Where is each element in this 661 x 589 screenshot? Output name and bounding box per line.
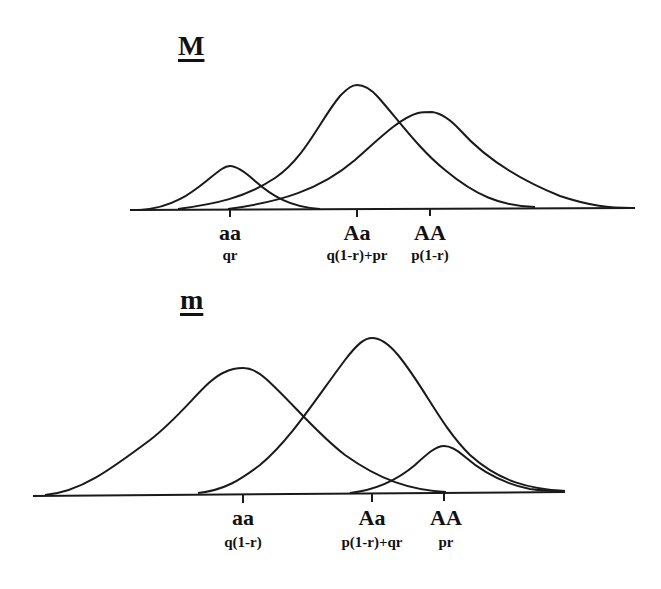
panel-title-m: m [180, 286, 203, 314]
bottom-genotype-Aa: Aa [359, 507, 386, 529]
bottom-curve-Aa [198, 338, 565, 493]
bottom-freq-aa: q(1-r) [224, 535, 262, 550]
genotype-distribution-diagram [0, 0, 661, 589]
top-curve-Aa [178, 85, 535, 209]
top-genotype-AA: AA [414, 222, 446, 244]
panel-title-M: M [178, 32, 204, 60]
top-genotype-Aa: Aa [344, 222, 371, 244]
bottom-genotype-AA: AA [430, 507, 462, 529]
top-freq-aa: qr [223, 248, 238, 263]
top-curve-AA [228, 112, 632, 209]
bottom-freq-AA: pr [439, 535, 454, 550]
top-genotype-aa: aa [219, 222, 241, 244]
top-freq-Aa: q(1-r)+pr [326, 248, 387, 263]
top-freq-AA: p(1-r) [411, 248, 449, 263]
top-curve-aa [140, 166, 320, 210]
bottom-genotype-aa: aa [232, 507, 254, 529]
bottom-curve-AA [350, 446, 565, 493]
bottom-freq-Aa: p(1-r)+qr [341, 535, 402, 550]
bottom-axis [33, 492, 565, 496]
top-axis [130, 208, 635, 210]
